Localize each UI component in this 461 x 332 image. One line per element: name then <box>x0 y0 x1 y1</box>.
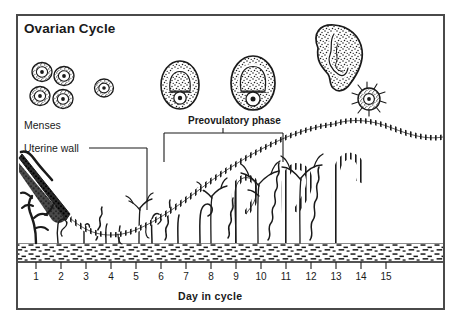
x-axis-tick-label: 14 <box>353 272 369 282</box>
x-axis-tick-label: 6 <box>153 272 169 282</box>
uterine-wall-leader <box>89 148 147 210</box>
x-axis-tick-label: 10 <box>253 272 269 282</box>
primary-follicle <box>95 79 114 97</box>
x-axis-tick-label: 11 <box>278 272 294 282</box>
x-axis <box>18 262 443 269</box>
graafian-follicle <box>231 56 275 110</box>
x-axis-tick-label: 1 <box>28 272 44 282</box>
x-axis-tick-label: 8 <box>203 272 219 282</box>
x-axis-title: Day in cycle <box>178 291 242 302</box>
diagram-artwork <box>0 0 461 332</box>
secondary-follicle <box>161 61 199 109</box>
x-axis-tick-label: 12 <box>303 272 319 282</box>
x-axis-tick-label: 3 <box>78 272 94 282</box>
x-axis-tick-label: 13 <box>328 272 344 282</box>
x-axis-tick-label: 9 <box>228 272 244 282</box>
x-axis-tick-label: 7 <box>178 272 194 282</box>
uterine-wall-label: Uterine wall <box>24 143 79 154</box>
primordial-follicle-cluster <box>30 63 74 109</box>
ovarian-cycle-figure: Ovarian Cycle Menses Uterine wall Preovu… <box>0 0 461 332</box>
page-title: Ovarian Cycle <box>24 22 115 36</box>
x-axis-tick-label: 15 <box>378 272 394 282</box>
menses-label: Menses <box>24 120 61 131</box>
preovulatory-phase-label: Preovulatory phase <box>188 116 281 126</box>
basal-layer <box>18 243 443 262</box>
released-ovum <box>352 82 386 116</box>
ruptured-follicle <box>316 25 362 91</box>
x-axis-tick-label: 4 <box>103 272 119 282</box>
x-axis-tick-label: 5 <box>128 272 144 282</box>
x-axis-tick-label: 2 <box>53 272 69 282</box>
